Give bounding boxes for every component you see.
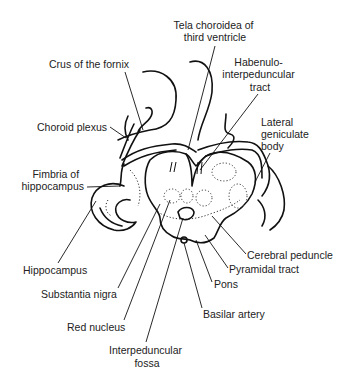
label-basilar-artery: Basilar artery [203, 308, 266, 320]
leader-substantia-nigra [118, 204, 160, 288]
geniculate-dotted [212, 163, 236, 181]
label-hippocampus: Hippocampus [23, 264, 87, 276]
leader-interpeduncular [146, 218, 183, 342]
left-crus-outline [118, 71, 176, 140]
label-red-nucleus: Red nucleus [67, 321, 125, 333]
leader-red-nucleus [124, 200, 170, 320]
fimbria-line [120, 164, 124, 186]
label-lateral-geniculate: Lateral geniculate body [261, 116, 312, 152]
label-tela-choroidea: Tela choroidea of third ventricle [174, 19, 257, 43]
hippocampus-dotted [106, 200, 112, 216]
leader-hippocampus [58, 201, 96, 263]
leader-cerebral-peduncle [212, 216, 246, 254]
midbrain-diagram: Tela choroidea of third ventricle Crus o… [0, 0, 351, 380]
label-substantia-nigra: Substantia nigra [41, 288, 117, 300]
label-interpeduncular: Interpeduncular fossa [109, 344, 185, 369]
red-nucleus-right [196, 190, 212, 206]
leader-basilar [184, 243, 202, 308]
label-pons: Pons [214, 278, 238, 290]
right-outer-curve [268, 166, 284, 230]
left-lateral-dotted [130, 170, 140, 206]
label-crus-fornix: Crus of the fornix [49, 58, 130, 70]
label-habenulo: Habenulo- interpeduncular tract [222, 56, 297, 93]
basilar-artery-circle [181, 237, 187, 243]
label-choroid-plexus: Choroid plexus [37, 121, 107, 133]
label-fimbria: Fimbria of hippocampus [22, 168, 84, 192]
midline-strands-left [170, 162, 176, 172]
leader-fimbria [87, 186, 120, 187]
right-outer-curve-2 [258, 200, 265, 226]
aqueduct [186, 154, 206, 186]
midbrain-outline [145, 152, 255, 243]
leader-crus-fornix [125, 72, 143, 130]
leader-pons [196, 240, 212, 282]
leader-choroid-plexus [110, 127, 126, 138]
label-cerebral-peduncle: Cerebral peduncle [247, 249, 333, 261]
labels: Tela choroidea of third ventricle Crus o… [22, 19, 333, 369]
red-nucleus-left [164, 189, 180, 203]
label-pyramidal-tract: Pyramidal tract [229, 263, 299, 275]
leader-pyramidal [205, 235, 228, 268]
interpeduncular-fossa [178, 208, 194, 220]
red-nucleus-center [181, 189, 193, 203]
